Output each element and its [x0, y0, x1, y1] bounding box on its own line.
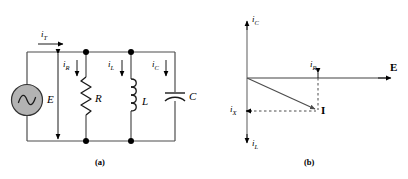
label-phasor-iX: iX — [230, 105, 237, 116]
label-inductor-L: L — [142, 96, 148, 107]
label-current-iL: iL — [108, 60, 114, 71]
node-dot-r-top — [83, 49, 89, 55]
label-voltage-E: E — [47, 94, 54, 105]
caption-a: (a) — [95, 158, 105, 167]
label-current-iC: iC — [152, 60, 159, 71]
phasor-diagram — [241, 15, 391, 143]
label-current-iR: iR — [63, 60, 70, 71]
label-phasor-I: I — [321, 105, 325, 116]
phasor-current-I-vector — [247, 78, 315, 109]
figure-svg — [0, 0, 408, 179]
node-dot-l-top — [128, 49, 134, 55]
resistor-symbol — [81, 77, 91, 115]
node-dot-r-bottom — [83, 138, 89, 144]
label-axis-iL: iL — [252, 139, 258, 150]
capacitor-plate-bottom — [165, 97, 185, 101]
caption-b: (b) — [304, 158, 314, 167]
label-axis-iC: iC — [252, 15, 259, 26]
figure-container: iT E iR iL iC R L C (a) iC iL E iR iX I … — [0, 0, 408, 179]
inductor-symbol — [131, 79, 136, 111]
label-resistor-R: R — [95, 93, 102, 104]
label-axis-E: E — [390, 62, 397, 73]
label-capacitor-C: C — [189, 91, 196, 102]
label-current-iT: iT — [41, 30, 47, 41]
label-phasor-iR: iR — [310, 60, 317, 71]
node-dot-l-bottom — [128, 138, 134, 144]
